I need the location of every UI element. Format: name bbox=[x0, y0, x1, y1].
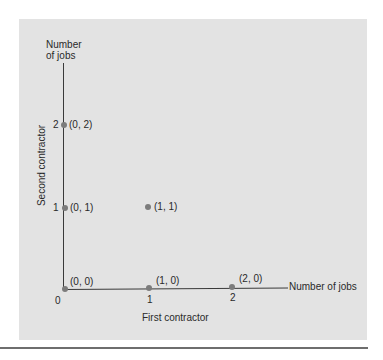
point-label-1-1: (1, 1) bbox=[154, 201, 177, 213]
point-label-0-1: (0, 1) bbox=[70, 202, 93, 214]
x-tick-2: 2 bbox=[230, 292, 236, 304]
point-0-2 bbox=[61, 122, 67, 128]
point-label-2-0: (2, 0) bbox=[239, 273, 262, 285]
point-label-0-0: (0, 0) bbox=[70, 276, 93, 288]
x-tick-0: 0 bbox=[55, 295, 61, 307]
y-axis-line bbox=[63, 63, 64, 291]
x-tick-1: 1 bbox=[147, 294, 153, 306]
x-axis-end-label: Number of jobs bbox=[289, 281, 357, 293]
point-1-0 bbox=[146, 285, 152, 291]
point-2-0 bbox=[229, 284, 235, 290]
y-axis-end-label-line2: of jobs bbox=[46, 50, 75, 62]
y-tick-1: 1 bbox=[53, 202, 59, 214]
point-label-1-0: (1, 0) bbox=[156, 275, 179, 287]
point-1-1 bbox=[145, 204, 151, 210]
point-0-1 bbox=[62, 205, 68, 211]
bottom-rule bbox=[0, 347, 368, 349]
y-axis-title: Second contractor bbox=[36, 121, 47, 211]
point-label-0-2: (0, 2) bbox=[69, 119, 92, 131]
y-tick-2: 2 bbox=[53, 119, 59, 131]
point-0-0 bbox=[62, 286, 68, 292]
x-axis-title: First contractor bbox=[142, 312, 209, 324]
